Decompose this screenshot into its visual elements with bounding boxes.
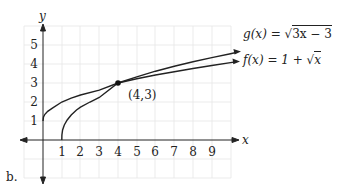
svg-text:3: 3 [95,145,103,159]
curve-f-arrow-icon [233,59,241,65]
y-axis-arrow-down-icon [41,177,46,184]
svg-text:6: 6 [151,145,159,159]
intersection-label: (4,3) [128,88,156,102]
svg-text:9: 9 [208,145,216,159]
sqrt-icon: √ [285,27,293,41]
x-axis-arrow-right-icon [232,138,239,143]
svg-text:8: 8 [189,145,197,159]
curve-g-arrow-icon [233,49,241,55]
intersection-point [115,80,121,86]
grid [24,26,231,178]
svg-text:1: 1 [30,114,38,128]
x-tick-labels: 1 2 3 4 5 6 7 8 9 [58,145,216,159]
svg-text:2: 2 [30,95,38,109]
svg-text:5: 5 [133,145,141,159]
g-equation: g(x) = √3x − 3 [243,27,332,41]
svg-text:3: 3 [30,76,38,90]
svg-text:2: 2 [76,145,84,159]
svg-text:7: 7 [170,145,178,159]
y-tick-labels: 1 2 3 4 5 [30,38,38,128]
y-axis-arrow-up-icon [41,24,46,31]
axes [20,24,239,184]
svg-text:4: 4 [30,57,38,71]
svg-text:5: 5 [30,38,38,52]
x-axis-label: x [242,133,249,147]
svg-text:4: 4 [114,145,122,159]
svg-text:1: 1 [58,145,66,159]
part-label: b. [6,170,18,184]
f-equation: f(x) = 1 + √x [243,53,321,67]
x-axis-arrow-left-icon [20,138,27,143]
y-axis-label: y [38,9,46,23]
